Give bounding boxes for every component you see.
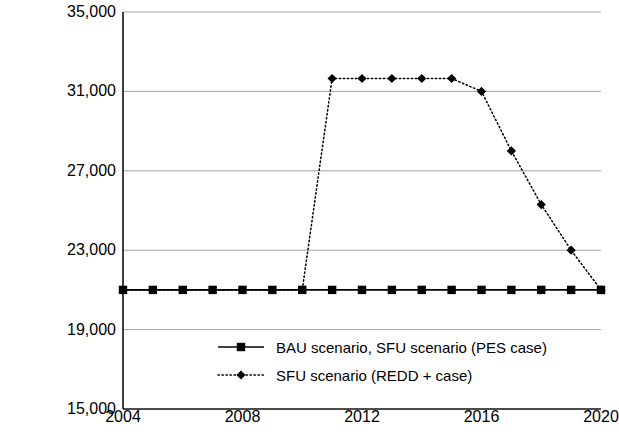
data-point-marker: [236, 370, 245, 379]
data-point-marker: [447, 286, 455, 294]
data-point-marker: [387, 74, 396, 83]
data-series: [123, 74, 606, 295]
series-line: [123, 78, 601, 289]
data-point-marker: [328, 74, 337, 83]
data-point-marker: [358, 286, 366, 294]
data-point-marker: [328, 286, 336, 294]
data-point-marker: [447, 74, 456, 83]
data-point-marker: [477, 87, 486, 96]
gridlines: [123, 12, 601, 330]
legend-item: BAU scenario, SFU scenario (PES case): [218, 339, 547, 356]
data-point-marker: [417, 74, 426, 83]
legend-label: SFU scenario (REDD + case): [276, 367, 472, 384]
data-point-marker: [567, 286, 575, 294]
data-point-marker: [537, 286, 545, 294]
chart-legend: BAU scenario, SFU scenario (PES case)SFU…: [218, 339, 547, 384]
data-point-marker: [237, 343, 245, 351]
data-point-marker: [388, 286, 396, 294]
data-point-marker: [537, 200, 546, 209]
legend-item: SFU scenario (REDD + case): [218, 367, 472, 384]
data-point-marker: [418, 286, 426, 294]
data-point-marker: [507, 286, 515, 294]
legend-label: BAU scenario, SFU scenario (PES case): [276, 339, 547, 356]
series-layer: [119, 74, 606, 295]
data-point-marker: [477, 286, 485, 294]
data-point-marker: [357, 74, 366, 83]
data-point-marker: [507, 146, 516, 155]
